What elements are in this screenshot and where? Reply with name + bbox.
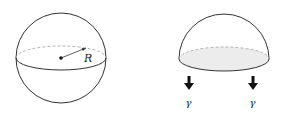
- force-arrow-left: γ: [184, 76, 194, 108]
- gamma-label: γ: [186, 97, 192, 108]
- arrow-down-icon: [184, 83, 194, 90]
- gamma-label: γ: [250, 97, 256, 108]
- diagram-canvas: R γ γ: [0, 0, 284, 115]
- radius-label: R: [83, 52, 92, 65]
- arrow-shaft: [188, 76, 191, 84]
- sphere: R: [16, 13, 106, 103]
- hemisphere: [179, 14, 269, 71]
- force-arrow-right: γ: [248, 76, 258, 108]
- arrow-shaft: [252, 76, 255, 84]
- arrow-down-icon: [248, 83, 258, 90]
